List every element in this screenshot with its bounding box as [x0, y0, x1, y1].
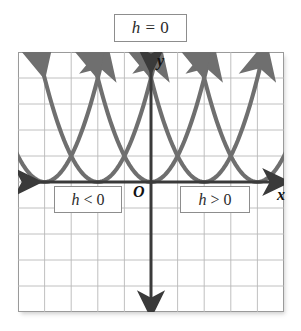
h-pos-lhs: h — [198, 191, 206, 209]
plot-svg — [18, 52, 284, 312]
title-lhs: h — [132, 18, 141, 38]
h-pos-operator: > — [210, 191, 219, 209]
coordinate-plane — [18, 52, 284, 312]
h-pos-rhs: 0 — [224, 191, 232, 209]
region-label-h-less-than-0: h < 0 — [54, 186, 122, 213]
figure-canvas: h = 0 — [0, 0, 301, 331]
title-rhs: 0 — [160, 18, 169, 38]
origin-label: O — [133, 183, 145, 201]
h-neg-rhs: 0 — [97, 191, 105, 209]
title-operator: = — [145, 18, 155, 38]
y-axis-label: y — [157, 52, 164, 70]
h-neg-operator: < — [83, 191, 92, 209]
h-neg-lhs: h — [71, 191, 79, 209]
region-label-h-greater-than-0: h > 0 — [180, 186, 250, 213]
title-label-h-equals-0: h = 0 — [114, 14, 187, 42]
x-axis-label: x — [277, 186, 285, 204]
